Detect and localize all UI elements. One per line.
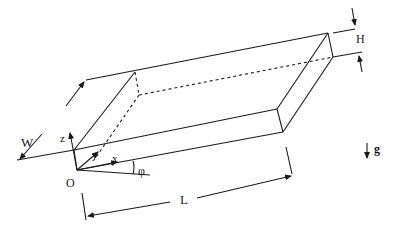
width-label: W	[21, 136, 33, 149]
z-axis-label: z	[60, 133, 65, 144]
diagram-canvas: W H L z y x O φ g	[0, 0, 393, 232]
y-axis-label: y	[92, 150, 98, 161]
top-back-edge	[86, 33, 328, 80]
origin-label: O	[66, 177, 75, 189]
front-top-edge	[74, 109, 277, 150]
gravity-label: g	[374, 143, 380, 155]
w-extension	[17, 150, 74, 160]
angle-label: φ	[138, 165, 145, 177]
length-label: L	[180, 193, 188, 206]
height-label: H	[356, 33, 365, 45]
top-right-edge	[277, 33, 328, 109]
x-axis-label: x	[112, 153, 118, 164]
box-drawing	[0, 0, 393, 232]
